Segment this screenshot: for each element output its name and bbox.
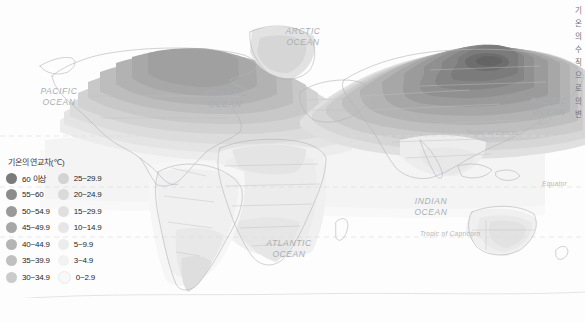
- legend-swatch: [6, 173, 17, 184]
- legend-title: 기온의 연교차(℃): [8, 156, 146, 167]
- legend-swatch: [58, 255, 69, 266]
- side-caption: 기 온 의 수 직 으 로 의 변: [572, 4, 584, 121]
- legend-label: 40~44.9: [22, 240, 50, 249]
- legend-swatch: [6, 206, 17, 217]
- side-caption-line: 로: [572, 82, 584, 95]
- legend-swatch: [58, 206, 69, 217]
- legend-swatch: [58, 239, 69, 250]
- legend-item: 50~54.9: [6, 204, 50, 218]
- legend-item: 5~9.9: [58, 237, 102, 251]
- legend-item: 55~60: [6, 188, 50, 202]
- side-caption-line: 직: [572, 56, 584, 69]
- side-caption-line: 의: [572, 30, 584, 43]
- legend-label: 45~49.9: [22, 223, 50, 232]
- side-caption-line: 기: [572, 4, 584, 17]
- legend-swatch: [58, 173, 69, 184]
- legend-label: 35~39.9: [22, 256, 50, 265]
- legend-label: 5~9.9: [74, 240, 93, 249]
- legend-swatch: [6, 255, 17, 266]
- legend-label: 50~54.9: [22, 207, 50, 216]
- legend-label: 55~60: [22, 190, 43, 199]
- side-caption-line: 온: [572, 17, 584, 30]
- legend-swatch: [6, 239, 17, 250]
- legend-swatch: [58, 271, 71, 284]
- legend-label: 25~29.9: [74, 174, 102, 183]
- side-caption-line: 수: [572, 43, 584, 56]
- legend-swatch: [6, 222, 17, 233]
- legend-item: 10~14.9: [58, 221, 102, 235]
- legend-column-right: 25~29.9 20~24.9 15~29.9 10~14.9 5~9.9: [58, 171, 102, 284]
- legend-swatch: [58, 222, 69, 233]
- legend-item: 30~34.9: [6, 270, 50, 284]
- legend-swatch: [6, 189, 17, 200]
- legend-item: 45~49.9: [6, 221, 50, 235]
- legend-label: 20~24.9: [74, 190, 102, 199]
- legend-item: 15~29.9: [58, 204, 102, 218]
- legend-item: 25~29.9: [58, 171, 102, 185]
- label-tropic-of-capricorn: Tropic of Capricorn: [420, 230, 481, 237]
- side-caption-line: 변: [572, 108, 584, 121]
- legend-label: 30~34.9: [22, 273, 50, 282]
- legend-label: 0~2.9: [76, 273, 95, 282]
- legend-item: 60 이상: [6, 171, 50, 185]
- legend-item: 3~4.9: [58, 254, 102, 268]
- legend-label: 3~4.9: [74, 256, 93, 265]
- legend-swatch: [58, 189, 69, 200]
- legend-label: 60 이상: [22, 173, 46, 184]
- legend-swatch: [6, 272, 17, 283]
- thematic-map-figure: ARCTIC OCEAN PACIFIC OCEAN ATLANTIC OCEA…: [0, 0, 585, 322]
- label-equator: Equator: [542, 180, 567, 187]
- legend-item: 20~24.9: [58, 188, 102, 202]
- legend-label: 15~29.9: [74, 207, 102, 216]
- legend-item: 0~2.9: [58, 270, 102, 284]
- side-caption-line: 의: [572, 95, 584, 108]
- side-caption-line: 으: [572, 69, 584, 82]
- legend-item: 35~39.9: [6, 254, 50, 268]
- legend-item: 40~44.9: [6, 237, 50, 251]
- legend-column-left: 60 이상 55~60 50~54.9 45~49.9 40~44.9: [6, 171, 50, 284]
- legend-label: 10~14.9: [74, 223, 102, 232]
- label-tropic-of-cancer: Tropic of Cancer: [466, 129, 518, 136]
- map-legend: 기온의 연교차(℃) 60 이상 55~60 50~54.9 45~49.9: [6, 156, 146, 284]
